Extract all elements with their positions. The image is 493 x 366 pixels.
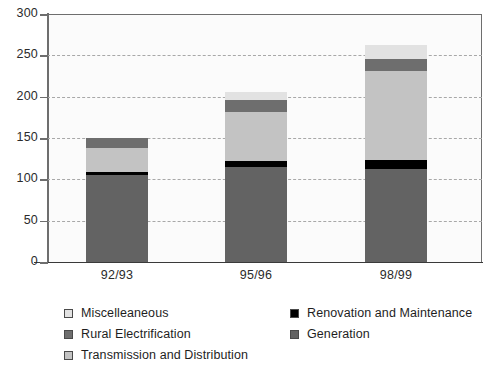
- legend-item: Generation: [290, 324, 493, 344]
- x-tick-label: 92/93: [62, 268, 172, 282]
- legend-column-left: MiscelleaneousRural ElectrificationTrans…: [64, 303, 294, 366]
- bar-segment: [86, 175, 148, 262]
- bar-92-93: [86, 138, 148, 262]
- legend-label: Transmission and Distribution: [81, 348, 248, 362]
- bar-segment: [365, 169, 427, 262]
- legend-label: Rural Electrification: [81, 327, 191, 341]
- bars-layer: [47, 14, 482, 262]
- bar-segment: [365, 71, 427, 160]
- legend-swatch-icon: [64, 351, 73, 360]
- chart-root: 050100150200250300 92/9395/9698/99 Misce…: [0, 0, 493, 366]
- bar-segment: [86, 148, 148, 172]
- y-tick-label: 100: [0, 171, 38, 185]
- legend-item: Rural Electrification: [64, 324, 294, 344]
- legend-label: Renovation and Maintenance: [307, 306, 472, 320]
- bar-98-99: [365, 45, 427, 262]
- y-tick-label: 0: [0, 254, 38, 268]
- bar-segment: [225, 167, 287, 262]
- legend-label: Generation: [307, 327, 370, 341]
- legend-column-right: Renovation and MaintenanceGeneration: [290, 303, 493, 345]
- legend-swatch-icon: [64, 330, 73, 339]
- bar-95-96: [225, 92, 287, 262]
- bar-segment: [365, 59, 427, 71]
- y-tick-mark: [40, 262, 48, 264]
- bar-segment: [225, 100, 287, 112]
- legend-item: Renovation and Maintenance: [290, 303, 493, 323]
- bar-segment: [86, 138, 148, 148]
- legend-label: Miscelleaneous: [81, 306, 169, 320]
- legend-item: Miscelleaneous: [64, 303, 294, 323]
- x-tick-label: 98/99: [341, 268, 451, 282]
- legend-swatch-icon: [290, 309, 299, 318]
- bar-segment: [225, 92, 287, 100]
- y-tick-label: 200: [0, 89, 38, 103]
- bar-segment: [365, 160, 427, 168]
- bar-segment: [365, 45, 427, 59]
- bar-segment: [225, 112, 287, 161]
- legend-swatch-icon: [64, 309, 73, 318]
- y-tick-label: 250: [0, 47, 38, 61]
- y-tick-label: 50: [0, 213, 38, 227]
- y-tick-label: 300: [0, 6, 38, 20]
- y-tick-label: 150: [0, 130, 38, 144]
- legend-swatch-icon: [290, 330, 299, 339]
- x-tick-label: 95/96: [201, 268, 311, 282]
- legend-item: Transmission and Distribution: [64, 345, 294, 365]
